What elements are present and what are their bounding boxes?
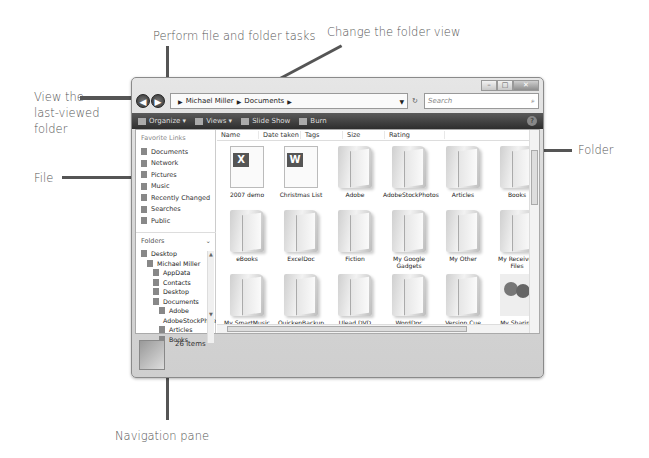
burn-icon bbox=[299, 118, 307, 125]
item-count: 26 items bbox=[175, 340, 206, 348]
folder-item[interactable]: Fiction bbox=[329, 206, 381, 270]
tree-item[interactable]: Documents bbox=[136, 297, 216, 307]
folder-item[interactable]: ExcelDoc bbox=[275, 206, 327, 270]
folder-item[interactable]: Adobe bbox=[329, 142, 381, 206]
organize-button[interactable]: Organize ▾ bbox=[138, 117, 186, 125]
folder-icon bbox=[338, 274, 372, 316]
arrow-line bbox=[80, 96, 132, 100]
horizontal-scrollbar[interactable] bbox=[217, 324, 529, 333]
scrollbar-thumb[interactable] bbox=[531, 150, 538, 205]
folder-item[interactable]: AdobeStockPhotos bbox=[383, 142, 435, 206]
folder-item[interactable]: eBooks bbox=[221, 206, 273, 270]
breadcrumb-documents[interactable]: Documents bbox=[244, 97, 284, 105]
search-icon[interactable]: ⌕ bbox=[531, 97, 535, 105]
favorite-music[interactable]: Music bbox=[136, 181, 215, 193]
file-list: Name Date taken Tags Size Rating X2007 d… bbox=[217, 130, 539, 333]
close-button[interactable]: ✕ bbox=[513, 80, 539, 91]
user-folder-icon bbox=[147, 260, 153, 267]
organize-icon bbox=[138, 118, 146, 125]
scrollbar-thumb[interactable] bbox=[227, 326, 467, 332]
column-rating[interactable]: Rating bbox=[385, 131, 445, 139]
tree-item[interactable]: Michael Miller bbox=[136, 259, 216, 269]
views-button[interactable]: Views ▾ bbox=[195, 117, 232, 125]
favorite-documents[interactable]: Documents bbox=[136, 146, 215, 158]
folder-icon bbox=[230, 274, 264, 316]
word-file-icon: W bbox=[284, 146, 318, 188]
views-icon bbox=[195, 118, 203, 125]
folder-icon bbox=[392, 210, 426, 252]
folder-item[interactable]: My Other bbox=[437, 206, 489, 270]
favorite-network[interactable]: Network bbox=[136, 158, 215, 170]
favorite-pictures[interactable]: Pictures bbox=[136, 169, 215, 181]
folder-tree: Desktop Michael Miller AppData Contacts … bbox=[136, 249, 216, 343]
breadcrumb-separator-icon: ▶ bbox=[178, 98, 183, 105]
folder-icon bbox=[446, 210, 480, 252]
tree-item[interactable]: Desktop bbox=[136, 249, 216, 259]
column-date-taken[interactable]: Date taken bbox=[259, 131, 301, 139]
minimize-button[interactable]: – bbox=[481, 80, 497, 91]
title-buttons: – □ ✕ bbox=[481, 80, 539, 91]
tree-item[interactable]: Desktop bbox=[136, 287, 216, 297]
recently-changed-icon bbox=[141, 194, 147, 201]
folder-item[interactable]: Articles bbox=[437, 142, 489, 206]
favorite-links-header: Favorite Links bbox=[136, 130, 215, 146]
column-headers: Name Date taken Tags Size Rating bbox=[217, 130, 539, 141]
folder-item[interactable]: My Google Gadgets bbox=[383, 206, 435, 270]
address-row: ◀ ▶ ▶ Michael Miller ▶ Documents ▶ ▼ ↻ S… bbox=[136, 92, 539, 110]
breadcrumb-michael-miller[interactable]: Michael Miller bbox=[186, 97, 234, 105]
refresh-icon[interactable]: ↻ bbox=[408, 97, 422, 105]
contacts-icon bbox=[153, 279, 159, 286]
vertical-scrollbar[interactable] bbox=[529, 130, 539, 333]
folder-icon bbox=[446, 274, 480, 316]
command-bar: Organize ▾ Views ▾ Slide Show Burn ? bbox=[132, 113, 543, 129]
tree-scrollbar[interactable]: ▲▼ bbox=[207, 251, 214, 343]
slideshow-button[interactable]: Slide Show bbox=[241, 117, 290, 125]
callout-folder: Folder bbox=[578, 142, 614, 158]
search-input[interactable]: Search ⌕ bbox=[424, 93, 539, 109]
folder-icon bbox=[159, 307, 165, 314]
address-bar[interactable]: ▶ Michael Miller ▶ Documents ▶ ▼ bbox=[170, 93, 408, 109]
folder-icon bbox=[284, 210, 318, 252]
desktop-icon bbox=[141, 250, 147, 257]
address-dropdown-icon[interactable]: ▼ bbox=[399, 98, 404, 105]
tree-item[interactable]: Articles bbox=[136, 325, 216, 335]
icon-grid: X2007 demo WChristmas List Adobe AdobeSt… bbox=[219, 142, 527, 334]
searches-icon bbox=[141, 206, 147, 213]
callout-change-view: Change the folder view bbox=[327, 24, 460, 40]
documents-folder-icon bbox=[139, 340, 165, 370]
documents-icon bbox=[153, 298, 159, 305]
folders-header[interactable]: Folders⌄ bbox=[136, 233, 216, 249]
folder-icon bbox=[392, 146, 426, 188]
column-name[interactable]: Name bbox=[217, 131, 259, 139]
pictures-icon bbox=[141, 171, 147, 178]
tree-item[interactable]: Contacts bbox=[136, 278, 216, 288]
document-folder-icon bbox=[446, 146, 480, 188]
burn-button[interactable]: Burn bbox=[299, 117, 326, 125]
network-icon bbox=[141, 160, 147, 167]
music-icon bbox=[141, 183, 147, 190]
back-button[interactable]: ◀ bbox=[136, 94, 150, 108]
tree-item[interactable]: AdobeStockPhotos bbox=[136, 316, 216, 326]
help-icon[interactable]: ? bbox=[527, 116, 537, 126]
folder-icon bbox=[338, 146, 372, 188]
tree-item[interactable]: AppData bbox=[136, 268, 216, 278]
breadcrumb-separator-icon: ▶ bbox=[237, 98, 242, 105]
favorite-searches[interactable]: Searches bbox=[136, 204, 215, 216]
favorite-public[interactable]: Public bbox=[136, 215, 215, 227]
slideshow-icon bbox=[241, 118, 249, 125]
navigation-pane: Favorite Links Documents Network Picture… bbox=[136, 130, 216, 333]
folder-icon bbox=[338, 210, 372, 252]
column-size[interactable]: Size bbox=[343, 131, 385, 139]
callout-perform-tasks: Perform file and folder tasks bbox=[153, 28, 316, 44]
favorite-recently-changed[interactable]: Recently Changed bbox=[136, 192, 215, 204]
folder-icon bbox=[284, 274, 318, 316]
breadcrumb-separator-icon: ▶ bbox=[287, 98, 292, 105]
tree-item[interactable]: Adobe bbox=[136, 306, 216, 316]
file-item[interactable]: WChristmas List bbox=[275, 142, 327, 206]
chevron-down-icon: ⌄ bbox=[206, 237, 211, 245]
column-tags[interactable]: Tags bbox=[301, 131, 343, 139]
excel-badge-icon: X bbox=[233, 153, 249, 167]
maximize-button[interactable]: □ bbox=[497, 80, 513, 91]
forward-button[interactable]: ▶ bbox=[151, 94, 165, 108]
file-item[interactable]: X2007 demo bbox=[221, 142, 273, 206]
